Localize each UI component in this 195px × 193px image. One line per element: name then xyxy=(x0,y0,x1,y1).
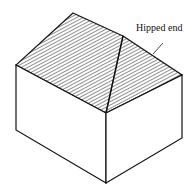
hipped-roof-diagram: Hipped end xyxy=(0,0,195,193)
hipped-end-label: Hipped end xyxy=(136,22,182,33)
label-leader-line xyxy=(153,43,163,54)
